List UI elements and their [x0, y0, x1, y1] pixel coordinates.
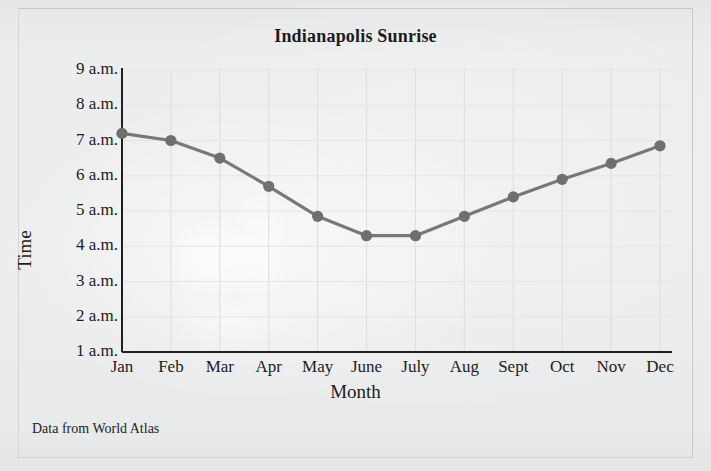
- x-tick-label: Aug: [450, 357, 479, 377]
- x-tick-label: Mar: [206, 357, 234, 377]
- x-tick-label: Oct: [550, 357, 575, 377]
- x-tick-label: Sept: [498, 357, 528, 377]
- x-tick-label: Jan: [111, 357, 134, 377]
- x-tick-label: Feb: [158, 357, 184, 377]
- x-axis-title: Month: [0, 381, 711, 403]
- x-tick-label: Dec: [646, 357, 673, 377]
- source-note: Data from World Atlas: [32, 421, 159, 437]
- x-tick-label: Nov: [596, 357, 625, 377]
- x-tick-label: July: [401, 357, 429, 377]
- x-tick-label: June: [351, 357, 382, 377]
- x-tick-label: Apr: [255, 357, 281, 377]
- x-tick-label: May: [302, 357, 333, 377]
- chart-page: Indianapolis Sunrise Time Jan: 7:12 a.m.…: [0, 0, 711, 471]
